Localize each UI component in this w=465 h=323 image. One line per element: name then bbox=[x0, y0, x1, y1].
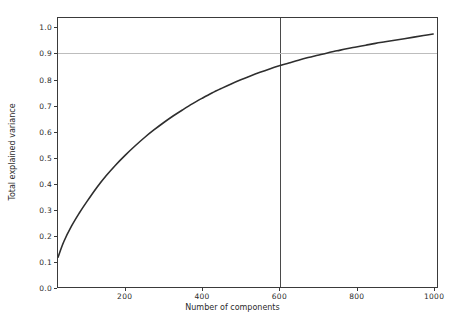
x-axis-tick-label: 200 bbox=[117, 292, 132, 301]
y-axis-tick-label: 0.1 bbox=[2, 257, 52, 266]
x-axis-tick-label: 400 bbox=[194, 292, 209, 301]
y-axis-tick-label: 0.0 bbox=[2, 284, 52, 293]
x-axis-tick-label: 1000 bbox=[424, 292, 444, 301]
explained-variance-chart: Total explained variance 0.00.10.20.30.4… bbox=[0, 0, 465, 323]
y-axis-tick-label: 0.3 bbox=[2, 205, 52, 214]
y-axis-tick-mark bbox=[54, 288, 57, 289]
plot-area bbox=[57, 17, 438, 288]
x-axis-tick-label: 800 bbox=[349, 292, 364, 301]
x-axis-tick-mark bbox=[357, 288, 358, 291]
x-axis-tick-mark bbox=[434, 288, 435, 291]
variance-curve bbox=[58, 18, 437, 287]
variance-curve-path bbox=[58, 34, 433, 257]
x-axis-tick-label: 600 bbox=[272, 292, 287, 301]
y-axis-tick-label: 1.0 bbox=[2, 23, 52, 32]
x-axis-tick-mark bbox=[279, 288, 280, 291]
y-axis-label: Total explained variance bbox=[8, 103, 17, 200]
y-axis-tick-label: 0.2 bbox=[2, 231, 52, 240]
x-axis-tick-mark bbox=[125, 288, 126, 291]
y-axis-tick-label: 0.8 bbox=[2, 75, 52, 84]
x-axis-tick-mark bbox=[202, 288, 203, 291]
y-axis-tick-label: 0.9 bbox=[2, 49, 52, 58]
x-axis-label: Number of components bbox=[0, 303, 465, 312]
